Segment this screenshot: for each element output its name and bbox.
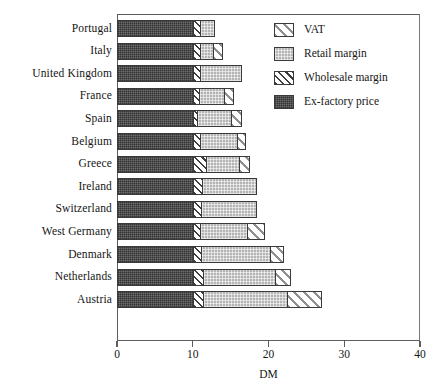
bar-segment-exfactory	[117, 110, 193, 127]
y-axis-category-labels: PortugalItalyUnited KingdomFranceSpainBe…	[0, 0, 112, 340]
bar-segment-exfactory	[117, 246, 193, 263]
bar-segment-retail	[203, 269, 276, 286]
legend-label: Retail margin	[304, 45, 367, 61]
legend-item-vat: VAT	[274, 20, 444, 44]
x-axis-title-text: DM	[259, 368, 278, 380]
y-axis-label: Greece	[0, 158, 112, 170]
bar-segment-vat	[270, 246, 284, 263]
bar-segment-vat	[224, 88, 235, 105]
legend-label: Wholesale margin	[304, 69, 388, 85]
bar-segment-vat	[239, 156, 250, 173]
bar-segment-vat	[237, 133, 246, 150]
bar-segment-retail	[201, 201, 257, 218]
bar-segment-retail	[200, 43, 214, 60]
bar-segment-vat	[247, 223, 264, 240]
bar-segment-wholesale	[193, 291, 204, 308]
x-axis-title: DM	[0, 368, 448, 380]
y-axis-label: Italy	[0, 45, 112, 57]
x-tick-label: 20	[263, 348, 275, 360]
x-tick-mark	[116, 341, 117, 347]
y-axis-label: Spain	[0, 113, 112, 125]
bar-segment-wholesale	[193, 133, 201, 150]
legend-swatch-retail	[274, 47, 294, 61]
y-axis-label: United Kingdom	[0, 68, 112, 80]
x-tick-label: 40	[414, 348, 426, 360]
bar-segment-vat	[275, 269, 291, 286]
y-axis-label: Austria	[0, 294, 112, 306]
y-axis-label: Netherlands	[0, 271, 112, 283]
bar-segment-retail	[206, 156, 239, 173]
bar-segment-exfactory	[117, 133, 193, 150]
bar-segment-wholesale	[193, 269, 203, 286]
bar-segment-vat	[213, 43, 223, 60]
bar-segment-exfactory	[117, 156, 193, 173]
bar-segment-vat	[287, 291, 322, 308]
bar-chart: PortugalItalyUnited KingdomFranceSpainBe…	[0, 0, 448, 392]
legend-item-retail: Retail margin	[274, 44, 444, 68]
bar-segment-exfactory	[117, 269, 193, 286]
legend-swatch-wholesale	[274, 71, 294, 85]
bar-segment-exfactory	[117, 20, 193, 37]
bar-segment-exfactory	[117, 291, 193, 308]
bar-segment-retail	[199, 88, 224, 105]
bar-segment-exfactory	[117, 43, 193, 60]
legend-item-wholesale: Wholesale margin	[274, 68, 444, 92]
x-tick-label: 10	[187, 348, 199, 360]
bar-segment-wholesale	[193, 65, 201, 82]
bar-segment-wholesale	[193, 223, 201, 240]
bar-segment-wholesale	[193, 201, 201, 218]
bar-segment-retail	[202, 178, 257, 195]
bar-segment-retail	[200, 133, 236, 150]
bar-segment-retail	[201, 246, 270, 263]
bar-segment-wholesale	[193, 156, 206, 173]
bar-segment-exfactory	[117, 178, 193, 195]
bar-segment-exfactory	[117, 88, 193, 105]
y-axis-label: Switzerland	[0, 203, 112, 215]
bar-segment-wholesale	[193, 20, 200, 37]
legend-item-exfactory: Ex-factory price	[274, 92, 444, 116]
bar-segment-wholesale	[193, 178, 202, 195]
bar-segment-retail	[203, 291, 286, 308]
y-axis-label: Belgium	[0, 136, 112, 148]
x-tick-mark	[268, 341, 269, 347]
bar-segment-vat	[231, 110, 242, 127]
y-axis-label: Denmark	[0, 249, 112, 261]
legend-label: VAT	[304, 21, 325, 37]
y-axis-label: Portugal	[0, 23, 112, 35]
x-tick-label: 30	[339, 348, 351, 360]
bar-segment-retail	[197, 110, 231, 127]
bar-segment-retail	[200, 20, 216, 37]
y-axis-label: West Germany	[0, 226, 112, 238]
x-tick-mark	[192, 341, 193, 347]
legend-swatch-exfactory	[274, 95, 294, 109]
bar-segment-exfactory	[117, 65, 193, 82]
bar-segment-retail	[200, 223, 247, 240]
bar-segment-wholesale	[193, 43, 200, 60]
chart-legend: VATRetail marginWholesale marginEx-facto…	[274, 20, 444, 116]
legend-swatch-vat	[274, 23, 294, 37]
bar-segment-retail	[200, 65, 242, 82]
legend-label: Ex-factory price	[304, 93, 379, 109]
x-tick-mark	[419, 341, 420, 347]
x-tick-mark	[344, 341, 345, 347]
y-axis-label: Ireland	[0, 181, 112, 193]
bar-segment-exfactory	[117, 223, 193, 240]
x-axis-tick-labels: 010203040	[0, 348, 448, 364]
bar-segment-wholesale	[193, 246, 201, 263]
y-axis-label: France	[0, 90, 112, 102]
x-tick-label: 0	[114, 348, 120, 360]
bar-segment-exfactory	[117, 201, 193, 218]
